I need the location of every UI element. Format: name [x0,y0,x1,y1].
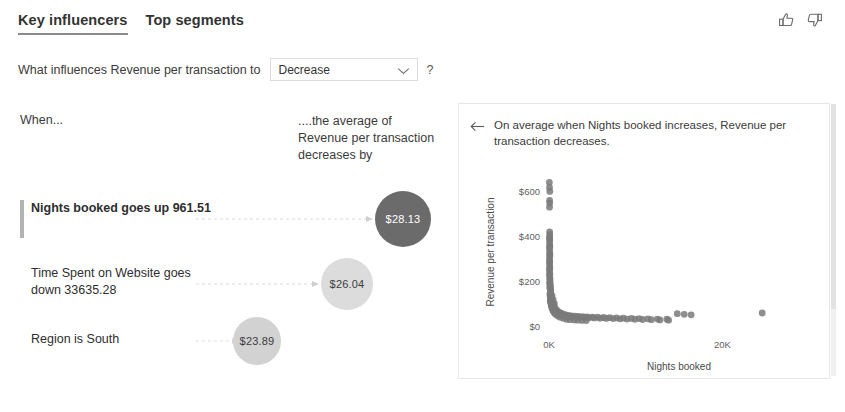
question-row: What influences Revenue per transaction … [18,58,433,81]
tab-key-influencers[interactable]: Key influencers [18,12,128,35]
scatter-point[interactable] [546,204,553,211]
influencer-value-3: $23.89 [240,335,275,347]
connector-line-2 [196,279,320,289]
influencer-bubble-3[interactable]: $23.89 [233,317,281,365]
feedback-icons [778,12,823,28]
average-column-label: ....the average of Revenue per transacti… [298,113,443,164]
back-arrow-icon[interactable] [470,117,485,149]
scatter-point[interactable] [648,316,655,323]
scatter-point[interactable] [546,243,553,250]
influencer-value-2: $26.04 [330,278,365,290]
y-axis-title: Revenue per transaction [485,198,496,307]
influencer-label-1: Nights booked goes up 961.51 [31,200,216,217]
dropdown-selected-value: Decrease [279,63,330,77]
influencer-bubble-2[interactable]: $26.04 [321,258,373,310]
question-label: What influences Revenue per transaction … [18,63,261,77]
thumbs-down-icon[interactable] [806,12,823,28]
scatter-point[interactable] [591,315,598,322]
tab-bar: Key influencers Top segments [18,12,244,35]
detail-panel-header: On average when Nights booked increases,… [470,117,813,149]
scatter-chart[interactable]: $0$200$400$6000K20KRevenue per transacti… [459,166,831,378]
scatter-point[interactable] [597,315,604,322]
scatter-points [546,179,766,324]
scatter-point[interactable] [624,316,631,323]
scatter-point[interactable] [617,315,624,322]
key-influencers-visual: Key influencers Top segments What influe… [0,0,845,412]
y-axis-tick-label: $0 [529,321,540,332]
detail-panel: On average when Nights booked increases,… [458,103,830,379]
scatter-point[interactable] [546,188,553,195]
influencer-value-1: $28.13 [386,213,421,225]
scatter-point[interactable] [546,235,553,242]
scatter-point[interactable] [546,251,553,258]
scatter-point[interactable] [631,316,638,323]
tab-top-segments[interactable]: Top segments [146,12,244,35]
scatter-chart-svg: $0$200$400$6000K20KRevenue per transacti… [459,166,831,378]
x-axis-title: Nights booked [647,361,711,372]
scatter-point[interactable] [674,310,681,317]
scatter-point[interactable] [603,315,610,322]
scatter-point[interactable] [681,311,688,318]
connector-line-1 [196,214,374,224]
y-axis-tick-label: $200 [519,276,540,287]
scatter-point[interactable] [688,311,695,318]
influence-direction-dropdown[interactable]: Decrease [270,58,418,81]
y-axis-tick-label: $400 [519,231,540,242]
scatter-point[interactable] [759,310,766,317]
x-axis-tick-label: 20K [714,339,732,350]
help-icon[interactable]: ? [427,63,434,77]
chevron-down-icon [397,61,410,79]
influencer-bubble-1[interactable]: $28.13 [375,191,431,247]
vertical-scrollbar[interactable] [831,104,836,376]
influencer-label-3: Region is South [31,331,216,348]
scatter-point[interactable] [547,290,554,297]
scatter-point[interactable] [610,315,617,322]
selected-indicator-bar [20,200,24,238]
scatter-point[interactable] [657,317,664,324]
scatter-point[interactable] [546,265,553,272]
when-column-label: When... [20,113,63,127]
scatter-point[interactable] [583,317,590,324]
scatter-point[interactable] [546,259,553,266]
y-axis-tick-label: $600 [519,186,540,197]
influencer-label-2: Time Spent on Website goes down 33635.28 [31,265,216,299]
scatter-point[interactable] [639,316,646,323]
detail-panel-description: On average when Nights booked increases,… [494,117,813,149]
thumbs-up-icon[interactable] [778,12,795,28]
scatter-point[interactable] [665,317,672,324]
scrollbar-thumb[interactable] [831,104,836,309]
x-axis-tick-label: 0K [543,339,555,350]
